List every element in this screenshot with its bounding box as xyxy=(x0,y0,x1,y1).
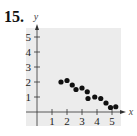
data-point xyxy=(79,85,84,90)
y-axis-label: y xyxy=(33,11,39,22)
data-point xyxy=(98,96,103,101)
y-axis-arrow-icon xyxy=(35,24,39,30)
data-point xyxy=(70,82,75,87)
y-tick-label: 5 xyxy=(26,31,32,43)
data-point xyxy=(85,89,90,94)
y-tick-label: 1 xyxy=(26,91,32,103)
y-tick-label: 2 xyxy=(26,76,32,88)
x-axis-label: x xyxy=(128,106,134,117)
x-axis-arrow-icon xyxy=(120,110,126,114)
y-tick-label: 4 xyxy=(26,46,32,58)
data-point xyxy=(113,104,118,109)
x-tick-label: 3 xyxy=(79,115,85,127)
plot-background xyxy=(26,28,121,126)
data-point xyxy=(64,78,69,83)
data-point xyxy=(58,79,63,84)
x-tick-label: 5 xyxy=(109,115,115,127)
data-point xyxy=(108,105,113,110)
y-tick-label: 3 xyxy=(26,61,32,73)
data-point xyxy=(85,96,90,101)
x-tick-label: 2 xyxy=(64,115,70,127)
data-point xyxy=(92,94,97,99)
x-tick-label: 4 xyxy=(94,115,100,127)
data-point xyxy=(73,87,78,92)
data-point xyxy=(103,100,108,105)
x-tick-label: 1 xyxy=(49,115,55,127)
scatter-plot: yx1234512345 xyxy=(0,0,137,136)
